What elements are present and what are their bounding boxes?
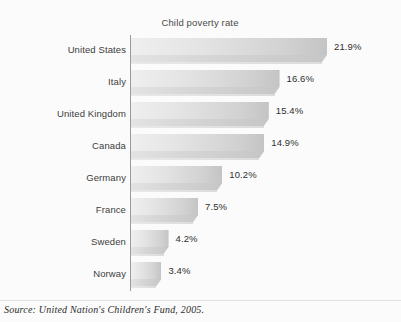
bar-row: Norway3.4% (0, 259, 401, 291)
bar-top-face (131, 166, 222, 183)
bar-category-label: United Kingdom (16, 108, 126, 119)
bar-front-face (131, 183, 222, 190)
child-poverty-rate-chart: Child poverty rate United States21.9%Ita… (0, 0, 401, 322)
bar (131, 134, 264, 160)
bar-base-shadow (131, 254, 164, 256)
bar-top-face (131, 134, 264, 151)
bar-value-label: 14.9% (271, 137, 298, 148)
bar-top-face (131, 262, 161, 279)
bar-category-label: France (16, 204, 126, 215)
bar-front-face (131, 119, 269, 126)
bar-category-label: United States (16, 44, 126, 55)
bar (131, 38, 327, 64)
bar (131, 230, 169, 256)
bar-category-label: Germany (16, 172, 126, 183)
bar-category-label: Norway (16, 268, 126, 279)
plot-area: United States21.9%Italy16.6%United Kingd… (0, 35, 401, 291)
bar (131, 262, 161, 288)
bar-base-shadow (131, 286, 156, 288)
bar-front-face (131, 55, 327, 62)
bar-row: United States21.9% (0, 35, 401, 67)
bar-base-shadow (131, 190, 217, 192)
chart-title: Child poverty rate (120, 17, 280, 28)
bar-top-face (131, 102, 269, 119)
bar-category-label: Canada (16, 140, 126, 151)
bar-base-shadow (131, 222, 193, 224)
bar-base-shadow (131, 62, 322, 64)
footer-divider (0, 300, 401, 301)
bar-row: Germany10.2% (0, 163, 401, 195)
bar-top-face (131, 198, 198, 215)
bar (131, 198, 198, 224)
bar-category-label: Italy (16, 76, 126, 87)
bar-front-face (131, 215, 198, 222)
bar-row: Sweden4.2% (0, 227, 401, 259)
bar-base-shadow (131, 158, 259, 160)
bar-top-face (131, 38, 327, 55)
bar-row: France7.5% (0, 195, 401, 227)
bar-value-label: 21.9% (334, 41, 361, 52)
bar-front-face (131, 87, 280, 94)
source-note: Source: United Nation's Children's Fund,… (4, 304, 204, 315)
bar-front-face (131, 247, 169, 254)
bar-value-label: 16.6% (287, 73, 314, 84)
bar (131, 166, 222, 192)
bar-base-shadow (131, 94, 275, 96)
bar-front-face (131, 279, 161, 286)
bar-row: Italy16.6% (0, 67, 401, 99)
bar (131, 102, 269, 128)
bar-category-label: Sweden (16, 236, 126, 247)
bar-base-shadow (131, 126, 264, 128)
bar-top-face (131, 70, 280, 87)
bar-front-face (131, 151, 264, 158)
bar (131, 70, 280, 96)
bar-value-label: 10.2% (229, 169, 256, 180)
bar-value-label: 7.5% (205, 201, 227, 212)
bar-row: United Kingdom15.4% (0, 99, 401, 131)
bar-value-label: 4.2% (176, 233, 198, 244)
bar-value-label: 3.4% (168, 265, 190, 276)
bar-top-face (131, 230, 169, 247)
bar-row: Canada14.9% (0, 131, 401, 163)
bar-value-label: 15.4% (276, 105, 303, 116)
